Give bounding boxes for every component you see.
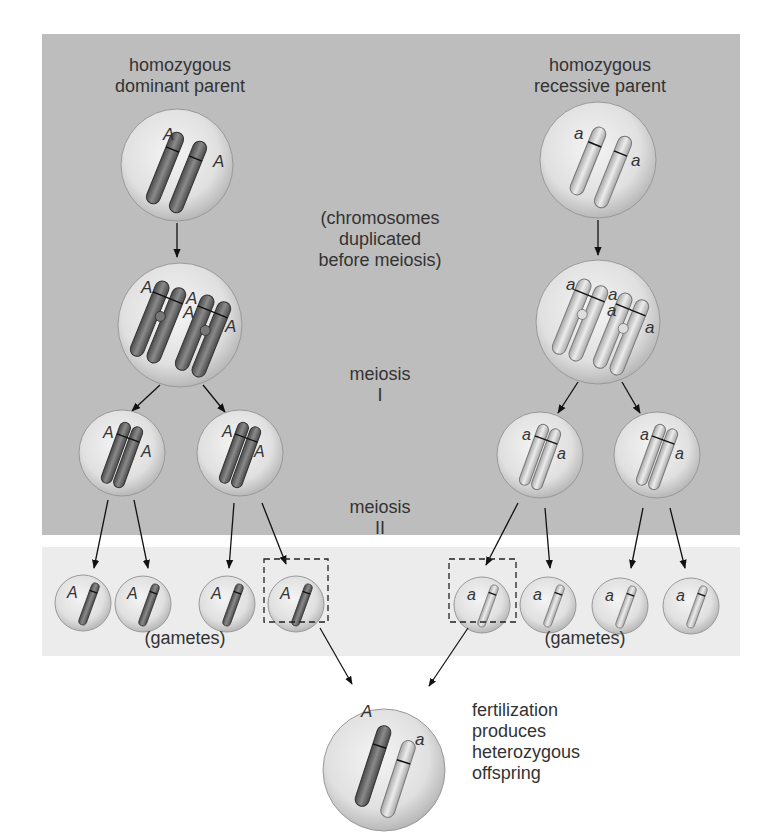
fertilization-label: fertilization produces heterozygous offs… [472, 700, 632, 784]
allele-label: A [66, 584, 78, 601]
allele-label: A [212, 152, 224, 171]
arrow [429, 628, 468, 686]
arrow [558, 382, 578, 413]
meiosis-one-cell: A A [79, 410, 165, 496]
meiosis-one-label: meiosis I [340, 364, 420, 406]
gamete-cell-selected: A [264, 559, 328, 632]
meiosis-one-cell: a a [614, 412, 700, 498]
allele-label: a [631, 151, 640, 170]
meiosis-two-label: meiosis II [340, 497, 420, 539]
arrow [622, 382, 640, 413]
allele-label: a [566, 275, 575, 294]
gamete-cell: A [199, 576, 255, 632]
gametes-right-label: (gametes) [520, 628, 650, 649]
allele-label: a [574, 124, 583, 143]
recessive-parent-label: homozygous recessive parent [520, 55, 680, 97]
arrow [134, 500, 148, 568]
allele-label: A [182, 303, 194, 322]
allele-label: A [253, 443, 265, 460]
allele-label: a [607, 301, 616, 320]
allele-label: A [140, 278, 152, 297]
gamete-cell: a [520, 577, 576, 633]
allele-label: a [533, 586, 542, 603]
meiosis-one-cell: A A [197, 410, 283, 496]
allele-label: A [279, 585, 291, 602]
allele-label: a [676, 587, 685, 604]
allele-label: A [360, 702, 372, 721]
gamete-cell: A [115, 576, 171, 632]
dominant-duplicated-cell: A A A A [118, 263, 242, 387]
allele-label: A [140, 443, 152, 460]
allele-label: a [415, 730, 424, 749]
arrow [132, 385, 160, 411]
heterozygous-offspring-cell: A a [323, 702, 445, 831]
dominant-parent-label: homozygous dominant parent [100, 55, 260, 97]
dominant-parent-cell: A A [121, 109, 233, 221]
arrow [94, 500, 108, 568]
meiosis-one-cell: a a [497, 412, 583, 498]
recessive-parent-cell: a a [540, 102, 656, 218]
allele-label: A [210, 585, 222, 602]
arrow [229, 503, 234, 568]
allele-label: a [640, 426, 649, 443]
allele-label: A [102, 424, 114, 441]
allele-label: a [645, 318, 654, 337]
gamete-cell: a [592, 578, 648, 634]
gametes-left-label: (gametes) [120, 628, 250, 649]
arrow [670, 508, 685, 568]
arrow [631, 508, 643, 568]
arrow [262, 503, 286, 564]
arrow [486, 503, 518, 565]
meiosis-diagram: A A a a A [0, 0, 763, 840]
allele-label: A [224, 317, 236, 336]
arrow [545, 508, 550, 568]
allele-label: A [126, 585, 138, 602]
gamete-cell: A [55, 575, 111, 631]
allele-label: a [675, 445, 684, 462]
recessive-duplicated-cell: a a a a [536, 260, 660, 384]
allele-label: a [522, 426, 531, 443]
allele-label: A [221, 423, 233, 440]
allele-label: a [557, 445, 566, 462]
allele-label: A [162, 125, 174, 144]
arrow [203, 385, 225, 412]
duplication-label: (chromosomes duplicated before meiosis) [300, 208, 460, 271]
allele-label: a [467, 586, 476, 603]
gamete-cell: a [663, 578, 719, 634]
allele-label: a [605, 587, 614, 604]
arrow [320, 628, 352, 684]
gamete-cell-selected: a [449, 559, 516, 633]
